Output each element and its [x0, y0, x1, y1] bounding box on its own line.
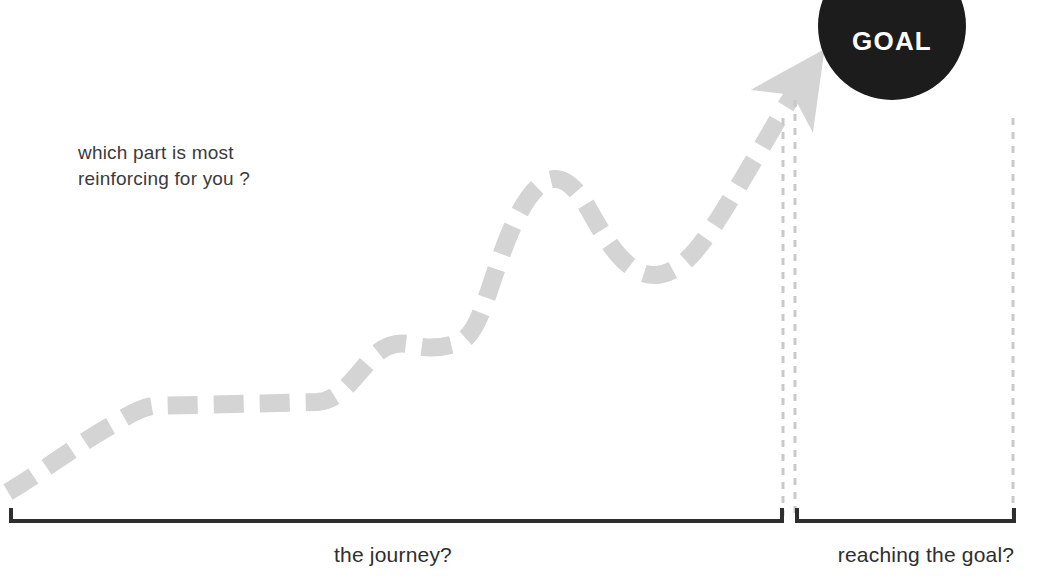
illustration-canvas: which part is most reinforcing for you ?…: [0, 0, 1056, 580]
reinforcement-question: which part is most reinforcing for you ?: [78, 140, 250, 192]
journey-bracket: [11, 508, 782, 521]
reinforcement-question-line1: which part is most: [78, 142, 234, 163]
reaching-goal-bracket: [797, 508, 1014, 521]
progress-journey-diagram: [0, 0, 1056, 580]
reaching-goal-segment-label: reaching the goal?: [796, 543, 1056, 567]
goal-label: GOAL: [818, 26, 966, 57]
reinforcement-question-line2: reinforcing for you ?: [78, 168, 250, 189]
journey-segment-label: the journey?: [0, 543, 786, 567]
